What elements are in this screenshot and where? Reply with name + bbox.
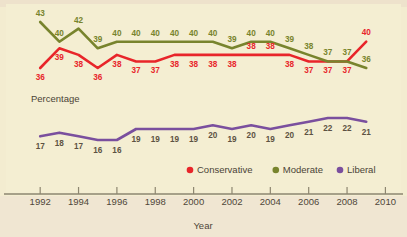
data-label: 38 [74,60,84,69]
data-label: 40 [208,29,218,38]
data-label: 19 [266,135,276,144]
data-label: 40 [170,29,180,38]
legend-item-liberal[interactable]: Liberal [337,164,376,175]
line-chart: 3639383638373738383838383838373737404340… [0,0,407,237]
chart-figure: 3639383638373738383838383838373737404340… [0,0,407,237]
legend-marker-icon [337,167,344,174]
x-axis-tick-label: 2010 [375,196,396,207]
data-label: 40 [247,29,257,38]
data-label: 37 [304,66,314,75]
data-label: 38 [247,42,257,51]
data-label: 40 [112,29,122,38]
data-label: 42 [74,16,84,25]
legend-marker-icon [187,167,194,174]
series-line-liberal [40,118,366,140]
data-label: 38 [112,60,122,69]
x-axis-tick-label: 1998 [145,196,166,207]
x-axis-tick-label: 2002 [221,196,242,207]
data-label: 40 [266,29,276,38]
data-label: 21 [304,128,314,137]
data-label: 19 [151,135,161,144]
data-label: 17 [36,142,46,151]
data-label: 37 [323,66,333,75]
x-axis-tick-label: 2008 [336,196,357,207]
data-label: 20 [247,131,257,140]
data-label: 36 [36,73,46,82]
series-line-conservative [40,42,366,68]
data-label: 37 [151,66,161,75]
data-label: 38 [227,60,237,69]
data-label: 19 [227,135,237,144]
legend-label: Liberal [347,164,376,175]
data-label: 39 [93,35,103,44]
data-label: 40 [151,29,161,38]
data-label: 22 [342,124,352,133]
x-axis-tick-label: 2006 [298,196,319,207]
legend-label: Conservative [197,164,252,175]
data-label: 22 [323,124,333,133]
data-label: 39 [55,53,65,62]
data-label: 17 [74,142,84,151]
data-label: 18 [55,139,65,148]
data-label: 40 [55,29,65,38]
data-label: 19 [189,135,199,144]
data-label: 19 [132,135,142,144]
data-label: 20 [285,131,295,140]
data-label: 38 [208,60,218,69]
data-label: 38 [304,42,314,51]
data-label: 37 [342,48,352,57]
data-label: 40 [132,29,142,38]
data-label: 38 [189,60,199,69]
data-label: 40 [362,28,372,37]
x-axis-tick-label: 1996 [106,196,127,207]
legend-item-conservative[interactable]: Conservative [187,164,253,175]
data-label: 36 [93,73,103,82]
x-axis-title: Year [193,220,212,231]
x-axis-tick-label: 2000 [183,196,204,207]
data-label: 37 [342,66,352,75]
data-label: 40 [189,29,199,38]
legend-item-moderate[interactable]: Moderate [273,164,323,175]
data-label: 38 [285,60,295,69]
value-label-layer: 3639383638373738383838383838373737404340… [36,9,372,155]
y-axis-title: Percentage [31,93,80,104]
data-label: 16 [93,146,103,155]
data-label: 37 [323,48,333,57]
legend-marker-icon [273,167,280,174]
legend-label: Moderate [283,164,323,175]
x-axis-tick-label: 2004 [260,196,281,207]
x-axis-tick-label: 1994 [68,196,89,207]
series-layer [40,22,366,140]
data-label: 21 [362,128,372,137]
data-label: 19 [170,135,180,144]
x-axis: 1992199419961998200020022004200620082010 [4,187,403,207]
data-label: 16 [112,146,122,155]
chart-legend: ConservativeModerateLiberal [187,164,376,175]
data-label: 43 [36,9,46,18]
data-label: 38 [170,60,180,69]
x-axis-tick-label: 1992 [30,196,51,207]
data-label: 36 [362,55,372,64]
data-label: 37 [132,66,142,75]
data-label: 20 [208,131,218,140]
data-label: 38 [266,42,276,51]
data-label: 39 [285,35,295,44]
data-label: 39 [227,35,237,44]
